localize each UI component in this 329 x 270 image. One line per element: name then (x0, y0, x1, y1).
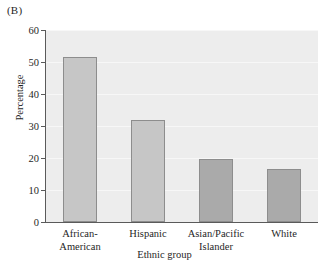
y-tick-mark (41, 62, 46, 63)
bar-chart-figure: (B) Percentage 0102030405060African- Ame… (0, 0, 329, 270)
y-tick-mark (41, 158, 46, 159)
plot-frame: 0102030405060African- AmericanHispanicAs… (46, 30, 318, 222)
y-tick-mark (41, 94, 46, 95)
bar (63, 57, 97, 222)
y-tick-mark (41, 190, 46, 191)
plot-area (46, 30, 318, 222)
x-axis-spine (45, 222, 318, 223)
y-tick-label: 10 (29, 185, 40, 196)
x-axis-title: Ethnic group (0, 249, 329, 261)
bar (267, 169, 301, 222)
y-tick-label: 20 (29, 153, 40, 164)
panel-label: (B) (7, 4, 22, 16)
y-tick-label: 50 (29, 57, 40, 68)
bar (131, 120, 165, 222)
x-tick-label: White (236, 228, 329, 241)
y-tick-mark (41, 126, 46, 127)
y-tick-label: 0 (34, 217, 39, 228)
y-tick-label: 40 (29, 89, 40, 100)
y-tick-mark (41, 222, 46, 223)
y-axis-title: Percentage (14, 48, 25, 148)
y-tick-label: 30 (29, 121, 40, 132)
y-tick-mark (41, 30, 46, 31)
y-tick-label: 60 (29, 25, 40, 36)
bar (199, 159, 233, 222)
gridline (46, 30, 318, 31)
